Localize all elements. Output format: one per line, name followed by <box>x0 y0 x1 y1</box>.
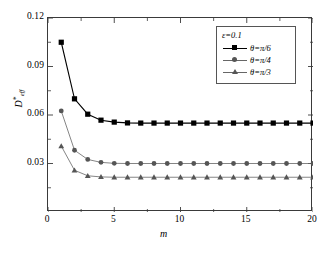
legend: ε=0.1 θ=π/6 θ=π/4 θ=π/3 <box>216 26 296 84</box>
legend-sample-triangle <box>222 66 248 78</box>
y-tick-label: 0.06 <box>27 108 44 118</box>
legend-item-theta-pi-3: θ=π/3 <box>222 66 295 78</box>
y-axis-label: D*eff <box>12 69 25 129</box>
y-axis-label-sub: eff <box>18 90 25 97</box>
x-tick-label: 10 <box>165 214 195 224</box>
x-tick-label: 15 <box>231 214 261 224</box>
y-tick-label: 0.09 <box>27 60 44 70</box>
legend-label-theta-pi-3: θ=π/3 <box>248 66 271 78</box>
legend-label-theta-pi-6: θ=π/6 <box>248 42 271 54</box>
y-axis-label-sup: * <box>12 96 21 100</box>
legend-sample-square <box>222 42 248 54</box>
x-axis-label: m <box>0 228 327 239</box>
y-tick-label: 0.03 <box>27 157 44 167</box>
x-tick-label: 20 <box>297 214 327 224</box>
x-tick-label: 0 <box>32 214 62 224</box>
legend-sample-circle <box>222 54 248 66</box>
y-tick-label: 0.12 <box>27 11 44 21</box>
x-tick-label: 5 <box>98 214 128 224</box>
legend-item-theta-pi-6: θ=π/6 <box>222 42 295 54</box>
legend-label-theta-pi-4: θ=π/4 <box>248 54 271 66</box>
legend-item-theta-pi-4: θ=π/4 <box>222 54 295 66</box>
legend-annotation-epsilon: ε=0.1 <box>222 30 295 40</box>
figure: 0.030.060.090.12 05101520 D*eff m ε=0.1 … <box>0 0 327 271</box>
y-axis-label-base: D <box>13 100 24 107</box>
